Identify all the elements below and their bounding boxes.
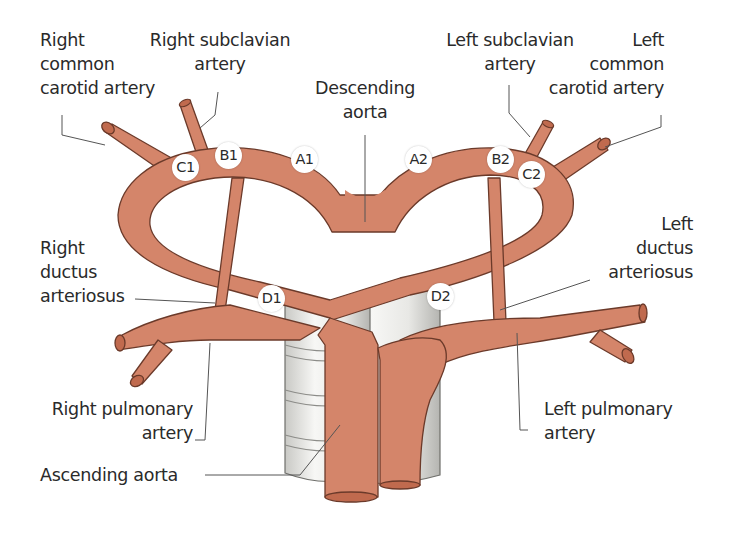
marker-b1: B1 — [215, 142, 242, 169]
label-left-pulmonary-artery: Left pulmonary artery — [544, 397, 672, 445]
marker-d1: D1 — [258, 285, 285, 312]
marker-d2: D2 — [427, 283, 454, 310]
label-ascending-aorta: Ascending aorta — [40, 463, 178, 487]
label-left-common-carotid-artery: Left common carotid artery — [549, 28, 664, 100]
marker-a2: A2 — [405, 146, 432, 173]
label-descending-aorta: Descending aorta — [305, 76, 425, 124]
marker-a1: A1 — [291, 146, 318, 173]
ascending-aorta-vessel — [318, 318, 378, 497]
label-right-ductus-arteriosus: Right ductus arteriosus — [40, 236, 125, 308]
label-right-subclavian-artery: Right subclavian artery — [140, 28, 300, 76]
label-right-common-carotid-artery: Right common carotid artery — [40, 28, 155, 100]
marker-b2: B2 — [487, 146, 514, 173]
label-left-ductus-arteriosus: Left ductus arteriosus — [608, 212, 693, 284]
right-subclavian-vessel — [180, 100, 208, 152]
marker-c1: C1 — [172, 154, 199, 181]
label-right-pulmonary-artery: Right pulmonary artery — [36, 397, 193, 445]
aortic-arch-diagram: Right common carotid artery Right subcla… — [0, 0, 733, 534]
marker-c2: C2 — [518, 161, 545, 188]
